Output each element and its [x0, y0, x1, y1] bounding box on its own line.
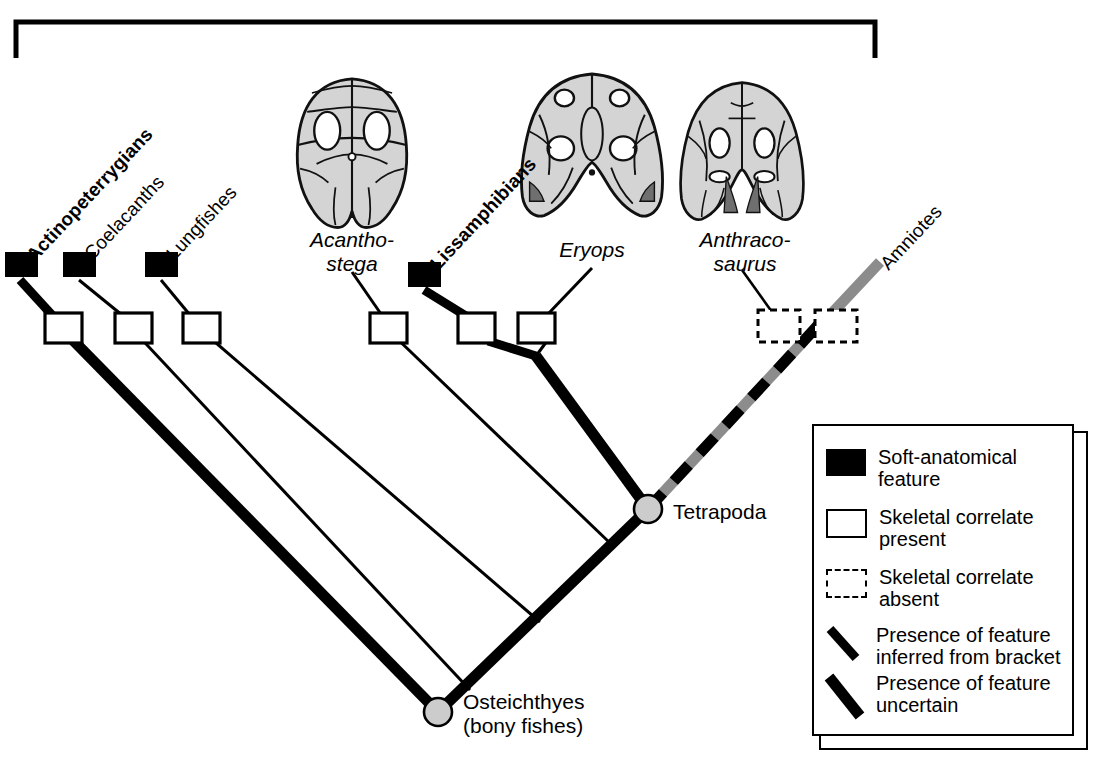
legend-panel: Soft-anatomical feature Skeletal correla…	[812, 424, 1084, 746]
present-box-eryops	[518, 313, 555, 343]
branch-acanthostega-tip	[352, 272, 381, 314]
legend-label: Presence of feature uncertain	[876, 672, 1051, 716]
legend-line: inferred from bracket	[876, 646, 1061, 668]
present-box-lungfishes	[183, 313, 220, 343]
node-label-line: (bony fishes)	[463, 714, 584, 738]
long-diagonal-line-icon	[822, 672, 868, 724]
legend-entry-correlate-present: Skeletal correlate present	[826, 506, 1066, 550]
extant-outgroup-bracket	[16, 22, 875, 58]
skull-acanthostega-icon	[297, 79, 406, 228]
legend-line: Soft-anatomical	[878, 446, 1017, 468]
legend-label: Skeletal correlate present	[879, 506, 1034, 550]
legend-line: present	[879, 528, 1034, 550]
present-box-acanthostega	[370, 313, 407, 343]
short-diagonal-line-icon	[822, 624, 868, 666]
absent-box-anthracosaurus	[758, 310, 800, 342]
fossil-label-line: Anthraco-	[680, 228, 810, 252]
skull-eryops-icon	[522, 74, 663, 216]
skeletal-present-boxes	[45, 313, 555, 343]
dashed-square-icon	[826, 569, 867, 598]
branch-actinopterygians-tip	[20, 280, 52, 315]
node-label-line: Osteichthyes	[463, 690, 584, 714]
fossil-label-line: stega	[292, 252, 412, 276]
legend-line: feature	[878, 468, 1017, 490]
legend-line: absent	[879, 588, 1034, 610]
legend-entry-inferred: Presence of feature inferred from bracke…	[822, 624, 1068, 668]
legend-entry-correlate-absent: Skeletal correlate absent	[826, 566, 1066, 610]
present-box-actinopterygians	[45, 313, 82, 343]
branch-lungfishes-stem	[201, 330, 540, 622]
absent-box-amniotes	[815, 310, 857, 342]
legend-entry-uncertain: Presence of feature uncertain	[822, 672, 1068, 724]
branch-actinopterygians-stem	[62, 329, 438, 712]
legend-line: uncertain	[876, 694, 1051, 716]
branch-osteichthyes-tetrapoda	[438, 509, 648, 712]
legend-line: Presence of feature	[876, 672, 1051, 694]
node-label-osteichthyes: Osteichthyes (bony fishes)	[463, 690, 584, 737]
branch-lungfishes-tip	[161, 280, 190, 315]
legend-line: Skeletal correlate	[879, 506, 1034, 528]
legend-line: Presence of feature	[876, 624, 1061, 646]
filled-square-icon	[826, 449, 866, 476]
open-square-icon	[826, 509, 867, 538]
fossil-label-acanthostega: Acantho- stega	[292, 228, 412, 275]
present-box-lissamphibians	[458, 313, 495, 343]
node-label-tetrapoda: Tetrapoda	[673, 500, 766, 524]
branch-coelacanths-stem	[133, 330, 470, 690]
branch-coelacanths-tip	[79, 280, 122, 315]
legend-line: Skeletal correlate	[879, 566, 1034, 588]
fossil-label-anthracosaurus: Anthraco- saurus	[680, 228, 810, 275]
legend-label: Presence of feature inferred from bracke…	[876, 624, 1061, 668]
node-tetrapoda	[634, 495, 662, 523]
legend-entry-soft-anatomical: Soft-anatomical feature	[826, 446, 1066, 490]
branch-anthracosaurus-tip	[742, 270, 772, 312]
node-label-line: Tetrapoda	[673, 500, 766, 524]
node-osteichthyes	[424, 698, 452, 726]
fossil-label-line: Acantho-	[292, 228, 412, 252]
branch-acanthostega	[388, 330, 610, 543]
fossil-label-eryops: Eryops	[532, 238, 652, 262]
branch-eryops-tip	[548, 268, 592, 314]
skull-anthracosaurus-icon	[681, 83, 804, 220]
present-box-coelacanths	[115, 313, 152, 343]
fossil-label-line: saurus	[680, 252, 810, 276]
figure-canvas: Actinopeterrygians Coelacanths Lungfishe…	[0, 0, 1093, 764]
legend-label: Skeletal correlate absent	[879, 566, 1034, 610]
fossil-label-line: Eryops	[532, 238, 652, 262]
legend-label: Soft-anatomical feature	[878, 446, 1017, 490]
